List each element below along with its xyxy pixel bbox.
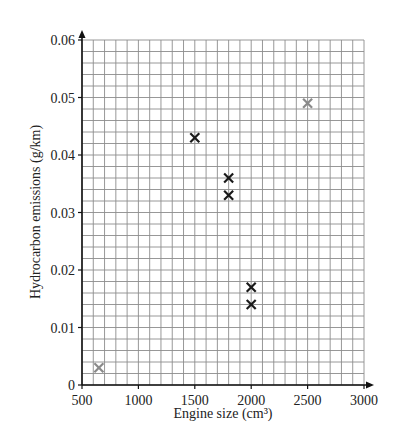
y-axis-label: Hydrocarbon emissions (g/km) bbox=[28, 125, 44, 300]
y-tick-label: 0.06 bbox=[51, 33, 76, 48]
cross-marker-icon bbox=[94, 363, 103, 372]
x-tick-label: 2500 bbox=[294, 393, 322, 408]
x-tick-label: 1000 bbox=[124, 393, 152, 408]
y-tick-label: 0.01 bbox=[51, 321, 76, 336]
y-tick-label: 0.05 bbox=[51, 91, 76, 106]
x-axis-arrow-icon bbox=[366, 382, 374, 389]
y-axis-ticks: 00.010.020.030.040.050.06 bbox=[51, 33, 83, 393]
y-tick-label: 0.03 bbox=[51, 206, 76, 221]
y-axis-arrow-icon bbox=[79, 30, 86, 38]
x-axis-ticks: 50010001500200025003000 bbox=[72, 385, 379, 408]
grid-lines bbox=[82, 40, 364, 385]
axes bbox=[79, 30, 375, 389]
y-tick-label: 0 bbox=[68, 378, 75, 393]
x-tick-label: 500 bbox=[72, 393, 93, 408]
x-tick-label: 3000 bbox=[350, 393, 378, 408]
scatter-chart: 50010001500200025003000 00.010.020.030.0… bbox=[0, 0, 394, 442]
y-tick-label: 0.02 bbox=[51, 263, 76, 278]
y-tick-label: 0.04 bbox=[51, 148, 76, 163]
x-axis-label: Engine size (cm³) bbox=[173, 406, 272, 422]
